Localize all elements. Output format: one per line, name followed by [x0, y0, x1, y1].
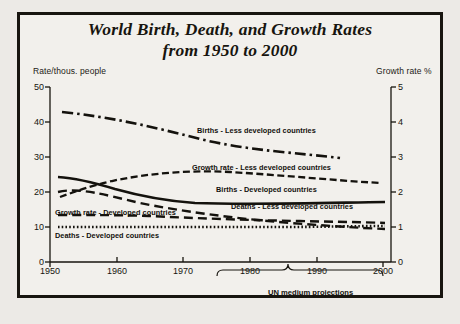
series-line-deaths-ldc [58, 190, 385, 229]
series-line-growth-ldc [60, 171, 380, 197]
chart-page: World Birth, Death, and Growth Rates fro… [0, 0, 460, 324]
series-line-deaths-dev [58, 226, 385, 227]
chart-plot [0, 0, 460, 324]
projection-brace [217, 264, 383, 276]
series-line-births-ldc [62, 112, 340, 158]
series-line-growth-dev [58, 215, 385, 223]
